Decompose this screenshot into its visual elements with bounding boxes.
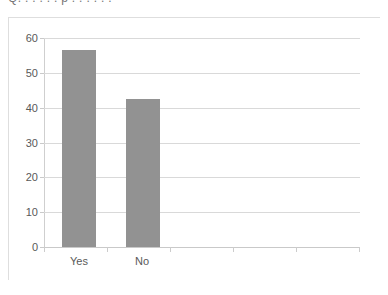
x-tick-mark-1: [107, 247, 108, 252]
y-tick-label-50: 50: [4, 67, 38, 78]
bar-yes[interactable]: [62, 50, 96, 247]
x-tick-label-yes: Yes: [70, 255, 88, 267]
x-tick-mark-0: [44, 247, 45, 252]
plot-area: [44, 38, 360, 247]
y-tick-label-10: 10: [4, 207, 38, 218]
gridline-60: [44, 38, 360, 39]
y-tick-label-0: 0: [4, 242, 38, 253]
x-tick-mark-3: [233, 247, 234, 252]
y-axis-labels: 60 50 40 30 20 10 0: [0, 0, 38, 295]
x-tick-mark-4: [296, 247, 297, 252]
bar-no[interactable]: [126, 99, 160, 247]
y-tick-label-30: 30: [4, 137, 38, 148]
gridline-baseline-0: [44, 247, 360, 248]
y-tick-label-60: 60: [4, 33, 38, 44]
x-tick-mark-2: [170, 247, 171, 252]
x-tick-mark-5: [359, 247, 360, 252]
clipped-header-strip: Q. . . . . . p . . . . . .: [0, 0, 388, 14]
y-tick-label-40: 40: [4, 102, 38, 113]
y-tick-label-20: 20: [4, 172, 38, 183]
x-tick-label-no: No: [135, 255, 149, 267]
